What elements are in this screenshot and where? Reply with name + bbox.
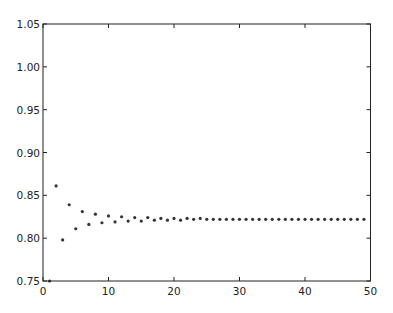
- axis-ticks: 010203040500.750.800.850.900.951.001.05: [17, 18, 378, 297]
- data-point: [172, 217, 175, 220]
- y-tick-label: 0.85: [17, 189, 40, 201]
- data-point: [303, 218, 306, 221]
- data-point: [310, 218, 313, 221]
- data-point: [133, 216, 136, 219]
- y-tick-label: 0.95: [17, 104, 40, 116]
- data-point: [192, 218, 195, 221]
- data-point: [140, 219, 143, 222]
- data-point: [330, 218, 333, 221]
- x-tick-label: 10: [102, 285, 115, 297]
- data-point: [277, 218, 280, 221]
- x-tick-label: 50: [364, 285, 377, 297]
- data-point: [349, 218, 352, 221]
- y-tick-label: 0.75: [17, 275, 40, 287]
- data-point: [336, 218, 339, 221]
- data-point: [225, 218, 228, 221]
- data-point: [68, 203, 71, 206]
- data-point: [74, 227, 77, 230]
- data-point: [284, 218, 287, 221]
- axes-frame: [43, 24, 371, 281]
- data-point: [290, 218, 293, 221]
- data-points: [48, 184, 366, 282]
- data-point: [356, 218, 359, 221]
- data-point: [179, 219, 182, 222]
- y-tick-label: 1.00: [17, 61, 40, 73]
- y-tick-label: 1.05: [17, 18, 40, 30]
- data-point: [199, 217, 202, 220]
- data-point: [323, 218, 326, 221]
- data-point: [120, 215, 123, 218]
- data-point: [55, 184, 58, 187]
- y-tick-label: 0.90: [17, 147, 40, 159]
- x-tick-label: 20: [167, 285, 180, 297]
- data-point: [107, 214, 110, 217]
- data-point: [317, 218, 320, 221]
- data-point: [146, 216, 149, 219]
- data-point: [231, 218, 234, 221]
- data-point: [113, 220, 116, 223]
- data-point: [244, 218, 247, 221]
- data-point: [100, 221, 103, 224]
- data-point: [186, 217, 189, 220]
- data-point: [159, 217, 162, 220]
- data-point: [94, 213, 97, 216]
- data-point: [61, 238, 64, 241]
- data-point: [166, 219, 169, 222]
- scatter-chart: 010203040500.750.800.850.900.951.001.05: [0, 0, 393, 313]
- data-point: [127, 219, 130, 222]
- data-point: [212, 218, 215, 221]
- x-tick-label: 0: [40, 285, 47, 297]
- data-point: [297, 218, 300, 221]
- data-point: [258, 218, 261, 221]
- data-point: [153, 219, 156, 222]
- x-tick-label: 40: [298, 285, 311, 297]
- data-point: [81, 210, 84, 213]
- data-point: [87, 223, 90, 226]
- data-point: [271, 218, 274, 221]
- data-point: [251, 218, 254, 221]
- data-point: [205, 218, 208, 221]
- data-point: [362, 218, 365, 221]
- data-point: [343, 218, 346, 221]
- x-tick-label: 30: [233, 285, 246, 297]
- data-point: [264, 218, 267, 221]
- y-tick-label: 0.80: [17, 232, 40, 244]
- data-point: [218, 218, 221, 221]
- data-point: [238, 218, 241, 221]
